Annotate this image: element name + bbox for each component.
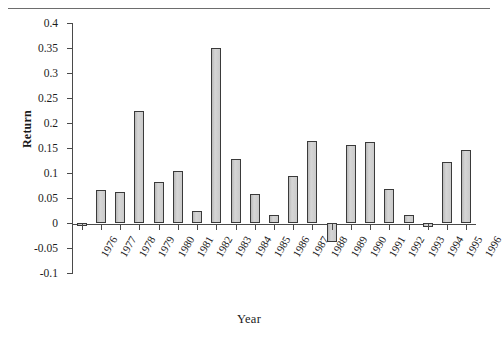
bar	[96, 190, 106, 223]
bar	[154, 182, 164, 224]
bar	[211, 48, 221, 224]
bar	[173, 171, 183, 223]
x-tick	[101, 224, 102, 230]
y-tick-label: 0.35	[38, 42, 58, 54]
y-axis-title: Return	[20, 110, 35, 148]
x-tick	[351, 224, 352, 230]
bar	[269, 215, 279, 223]
y-tick-label: 0.25	[38, 92, 58, 104]
x-tick	[216, 224, 217, 230]
y-tick-label: 0.05	[38, 192, 58, 204]
x-tick	[389, 224, 390, 230]
x-tick	[312, 224, 313, 230]
x-tick	[197, 224, 198, 230]
y-tick-label: 0.15	[38, 142, 58, 154]
x-tick	[178, 224, 179, 230]
x-tick	[370, 224, 371, 230]
x-tick	[332, 224, 333, 230]
plot-area: 0.40.350.30.250.20.150.10.050-0.05-0.1 1…	[72, 23, 476, 273]
x-tick-label: 1996	[482, 234, 503, 259]
y-tick-label: 0	[52, 217, 58, 229]
x-tick	[447, 224, 448, 230]
y-tick-label: 0.1	[44, 167, 58, 179]
bar	[442, 162, 452, 224]
bar	[461, 150, 471, 224]
bar	[384, 189, 394, 223]
x-tick	[120, 224, 121, 230]
bar	[250, 194, 260, 223]
y-tick-label: 0.3	[44, 67, 58, 79]
x-tick	[82, 224, 83, 230]
bar	[404, 215, 414, 224]
y-tick-label: -0.05	[34, 242, 58, 254]
y-tick-label: 0.4	[44, 17, 58, 29]
bar	[134, 111, 144, 223]
y-tick: -0.1	[67, 273, 73, 274]
y-tick-label: 0.2	[44, 117, 58, 129]
bar	[231, 159, 241, 224]
bar	[346, 145, 356, 223]
y-tick-label: -0.1	[40, 267, 58, 279]
x-tick	[274, 224, 275, 230]
x-tick	[466, 224, 467, 230]
x-axis-title: Year	[0, 312, 498, 327]
x-tick	[255, 224, 256, 230]
x-tick	[293, 224, 294, 230]
x-tick	[428, 224, 429, 230]
x-tick	[236, 224, 237, 230]
bar	[115, 192, 125, 223]
bar	[288, 176, 298, 224]
bar	[365, 142, 375, 223]
x-tick	[159, 224, 160, 230]
bar	[307, 141, 317, 224]
x-tick	[409, 224, 410, 230]
bar	[192, 211, 202, 224]
x-tick	[139, 224, 140, 230]
top-divider-rule	[8, 8, 490, 9]
